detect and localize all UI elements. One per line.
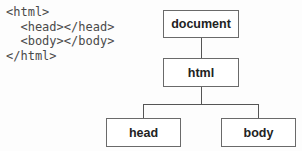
connector-horizontal [143, 104, 259, 105]
node-html: html [163, 58, 239, 87]
node-label: html [188, 66, 214, 80]
code-line: <head></head> [6, 20, 114, 35]
node-document: document [163, 10, 239, 38]
code-line: <html> [6, 5, 114, 20]
code-line: <body></body> [6, 34, 114, 49]
connector-document-html [201, 38, 202, 58]
node-body: body [221, 118, 296, 147]
node-head: head [106, 118, 181, 147]
code-line: </html> [6, 49, 114, 64]
html-code-snippet: <html> <head></head> <body></body></html… [6, 5, 114, 63]
connector-to-head [143, 104, 144, 118]
connector-to-body [258, 104, 259, 118]
node-label: document [171, 17, 231, 31]
node-label: body [244, 126, 274, 140]
connector-html-down [201, 87, 202, 104]
node-label: head [129, 126, 158, 140]
